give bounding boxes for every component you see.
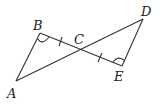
segment-ab [16,33,40,81]
geometry-diagram: A B C D E [0,0,165,106]
label-a: A [6,86,16,101]
segment-de [122,19,143,66]
label-d: D [140,4,152,19]
label-b: B [32,18,43,33]
label-c: C [74,32,84,47]
angle-mark-e [113,58,125,62]
angle-mark-b [38,37,50,42]
label-e: E [113,69,124,84]
